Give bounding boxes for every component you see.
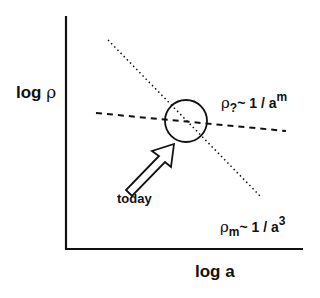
today-arrow-icon [126, 144, 174, 196]
x-axis-label: log a [195, 262, 235, 282]
matter-density-equation: ρm~ 1 / a3 [220, 214, 286, 239]
unknown-density-equation: ρ?~ 1 / am [221, 90, 287, 115]
diagram-canvas [0, 0, 320, 298]
unknown-density-line [96, 113, 286, 131]
matter-density-line [108, 40, 262, 198]
today-label: today [117, 191, 152, 206]
y-axis-label: log ρ [16, 82, 56, 103]
